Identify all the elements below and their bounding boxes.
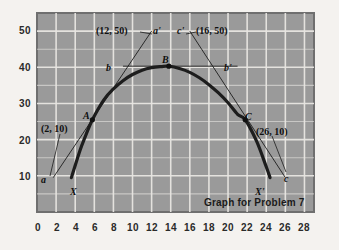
x-axis-tick-6: 6	[86, 222, 104, 233]
y-axis-tick-10: 10	[9, 171, 31, 182]
label-b: b	[106, 62, 111, 73]
x-axis-tick-28: 28	[295, 222, 313, 233]
label-point-X: X	[70, 186, 77, 197]
figure-caption: Graph for Problem 7	[204, 197, 305, 208]
annotation-coord-16-50: (16, 50)	[196, 25, 228, 36]
x-axis-tick-22: 22	[238, 222, 256, 233]
graph-figure: 50 40 30 20 10 0 2 4 6 8 10 12 14 16 18 …	[0, 0, 339, 250]
x-axis-tick-10: 10	[124, 222, 142, 233]
x-axis-tick-8: 8	[105, 222, 123, 233]
label-point-B: B	[162, 54, 169, 65]
y-axis-tick-30: 30	[9, 98, 31, 109]
y-axis-tick-20: 20	[9, 135, 31, 146]
x-axis-tick-20: 20	[219, 222, 237, 233]
label-c-prime: c'	[177, 25, 184, 36]
x-axis-tick-14: 14	[162, 222, 180, 233]
x-axis-tick-0: 0	[29, 222, 47, 233]
point-marker-A	[90, 117, 95, 122]
x-axis-tick-24: 24	[257, 222, 275, 233]
label-b-prime: b'	[224, 62, 232, 73]
x-axis-tick-12: 12	[143, 222, 161, 233]
x-axis-tick-4: 4	[67, 222, 85, 233]
label-c: c	[284, 173, 288, 184]
annotation-coord-12-50: (12, 50)	[96, 25, 128, 36]
x-axis-tick-26: 26	[276, 222, 294, 233]
label-a-prime: a'	[153, 25, 161, 36]
x-axis-tick-2: 2	[48, 222, 66, 233]
x-axis-tick-16: 16	[181, 222, 199, 233]
annotation-coord-26-10: (26, 10)	[256, 126, 288, 137]
plot-area-background	[37, 13, 314, 212]
label-point-C: C	[245, 111, 252, 122]
label-a: a	[41, 174, 46, 185]
y-axis-tick-40: 40	[9, 62, 31, 73]
x-axis-tick-18: 18	[200, 222, 218, 233]
y-axis-tick-50: 50	[9, 25, 31, 36]
label-point-A: A	[83, 110, 90, 121]
annotation-coord-2-10: (2, 10)	[41, 123, 68, 134]
label-point-X-prime: X'	[255, 186, 264, 197]
